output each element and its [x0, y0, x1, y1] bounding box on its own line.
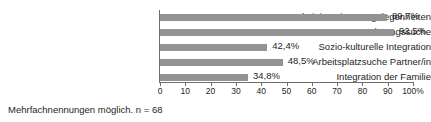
bar-value-label: 89,7% — [392, 9, 419, 23]
category-label: Sozio-kulturelle Integration — [276, 42, 431, 52]
x-axis-tick-label: 90 — [383, 86, 392, 96]
x-axis-tick-label: 30 — [231, 86, 240, 96]
bar-integration-der-familie — [160, 74, 248, 81]
x-axis-tick-label: 80 — [358, 86, 367, 96]
bar-sozio-kulturelle-integration — [160, 44, 267, 51]
y-axis-line — [159, 10, 160, 82]
chart-footnote: Mehrfachnennungen möglich. n = 68 — [8, 104, 162, 116]
bar-value-label: 48,5% — [288, 54, 315, 68]
bar-value-label: 34,8% — [253, 69, 280, 83]
bar-chart-figure: Administrativen Angelegenheiten Wohnungs… — [0, 0, 431, 122]
x-axis-tick-label: 50 — [282, 86, 291, 96]
bar-value-label: 42,4% — [272, 39, 299, 53]
bar-arbeitsplatzsuche-partner-in — [160, 59, 283, 66]
x-axis-tick-label: 70 — [332, 86, 341, 96]
x-axis-tick-label: 40 — [256, 86, 265, 96]
x-axis-tick-label: 20 — [206, 86, 215, 96]
bar-wohnungssuche — [160, 29, 394, 36]
plot-area: Administrativen Angelegenheiten Wohnungs… — [0, 0, 431, 96]
x-axis-tick-label: 10 — [181, 86, 190, 96]
x-axis-tick-label: 0 — [158, 86, 163, 96]
bar-administrativen-angelegenheiten — [160, 14, 387, 21]
bar-value-label: 92,5% — [399, 24, 426, 38]
x-axis-tick-label: 100% — [402, 86, 424, 96]
x-axis-tick-label: 60 — [307, 86, 316, 96]
category-label: Integration der Familie — [276, 72, 431, 82]
